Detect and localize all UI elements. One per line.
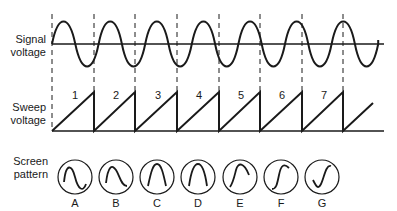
sweep-number: 3 (155, 89, 161, 101)
pattern-letter: C (147, 197, 167, 209)
pattern-letter: D (188, 197, 208, 209)
screen-circles (58, 160, 339, 194)
sync-dashed-lines (52, 14, 343, 131)
sweep-number: 1 (72, 89, 78, 101)
sweep-number: 4 (196, 89, 202, 101)
sweep-number: 6 (279, 89, 285, 101)
pattern-letter: E (230, 197, 250, 209)
sweep-number: 5 (238, 89, 244, 101)
screen-traces (64, 164, 331, 189)
sweep-number: 7 (321, 89, 327, 101)
pattern-letter: G (312, 197, 332, 209)
pattern-letter: A (65, 197, 85, 209)
pattern-letter: F (271, 197, 291, 209)
pattern-letter: B (106, 197, 126, 209)
sweep-number: 2 (113, 89, 119, 101)
waveform-diagram (0, 0, 397, 211)
